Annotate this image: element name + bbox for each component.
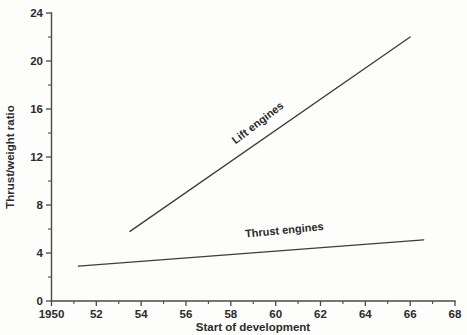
y-tick-label: 0 bbox=[37, 295, 43, 307]
x-tick-label: 52 bbox=[90, 308, 103, 320]
x-tick-label: 56 bbox=[180, 308, 193, 320]
chart-page: 04812162024 1950525456586062646668 Lift … bbox=[0, 0, 467, 335]
data-series-labels: Lift enginesThrust engines bbox=[229, 99, 324, 239]
series-line bbox=[78, 240, 423, 266]
x-tick-label: 1950 bbox=[39, 308, 65, 320]
x-tick-label: 66 bbox=[404, 308, 417, 320]
y-tick-label: 12 bbox=[30, 151, 43, 163]
x-axis-title: Start of development bbox=[196, 321, 311, 333]
x-axis-tick-labels: 1950525456586062646668 bbox=[39, 308, 462, 320]
series-line bbox=[130, 37, 410, 231]
y-axis-title: Thrust/weight ratio bbox=[4, 105, 16, 209]
axis-lines bbox=[52, 13, 456, 301]
y-axis-major-ticks bbox=[46, 13, 52, 301]
y-tick-label: 20 bbox=[30, 55, 43, 67]
y-tick-label: 4 bbox=[37, 247, 44, 259]
x-tick-label: 54 bbox=[135, 308, 148, 320]
series-label: Lift engines bbox=[229, 99, 285, 146]
y-tick-label: 16 bbox=[30, 103, 43, 115]
y-tick-label: 24 bbox=[30, 7, 43, 19]
y-axis-tick-labels: 04812162024 bbox=[30, 7, 43, 307]
x-tick-label: 62 bbox=[314, 308, 327, 320]
y-tick-label: 8 bbox=[37, 199, 44, 211]
line-chart: 04812162024 1950525456586062646668 Lift … bbox=[0, 0, 467, 335]
plot-axes bbox=[52, 13, 456, 301]
series-label: Thrust engines bbox=[244, 220, 324, 240]
x-tick-label: 64 bbox=[359, 308, 372, 320]
x-tick-label: 68 bbox=[449, 308, 462, 320]
x-tick-label: 58 bbox=[224, 308, 237, 320]
x-tick-label: 60 bbox=[269, 308, 282, 320]
